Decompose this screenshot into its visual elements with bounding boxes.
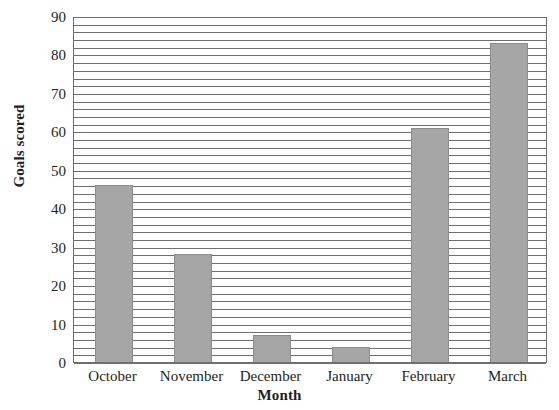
gridline <box>74 102 546 103</box>
gridline <box>74 194 546 195</box>
y-axis-tick-label: 30 <box>26 241 66 256</box>
gridline <box>74 317 546 318</box>
gridline <box>74 32 546 33</box>
y-axis-tick-label: 20 <box>26 279 66 294</box>
gridline <box>74 86 546 87</box>
gridline <box>74 271 546 272</box>
x-axis-tick-label: December <box>231 367 310 385</box>
gridline <box>74 40 546 41</box>
bar <box>174 254 212 362</box>
y-axis-tick-label: 0 <box>26 356 66 371</box>
gridline <box>74 232 546 233</box>
gridline <box>74 48 546 49</box>
gridline <box>74 109 546 110</box>
y-axis-tick-label: 60 <box>26 125 66 140</box>
gridline <box>74 325 546 326</box>
x-axis-tick-label: October <box>73 367 152 385</box>
gridline <box>74 340 546 341</box>
gridline <box>74 94 546 95</box>
x-axis-title: Month <box>0 387 559 404</box>
gridline <box>74 178 546 179</box>
gridline <box>74 263 546 264</box>
gridline <box>74 155 546 156</box>
gridline <box>74 117 546 118</box>
gridline <box>74 25 546 26</box>
y-axis-tick-label: 50 <box>26 164 66 179</box>
bar <box>95 185 133 362</box>
y-axis-tick-labels: 0102030405060708090 <box>22 17 66 363</box>
gridline <box>74 217 546 218</box>
gridline <box>74 240 546 241</box>
bar <box>411 128 449 363</box>
gridline <box>74 17 546 18</box>
y-axis-tick-label: 90 <box>26 10 66 25</box>
plot-area <box>73 17 547 363</box>
gridline <box>74 301 546 302</box>
gridline <box>74 186 546 187</box>
gridline <box>74 355 546 356</box>
bar-chart: Goals scored 0102030405060708090 October… <box>0 0 559 410</box>
gridline <box>74 125 546 126</box>
gridline <box>74 363 546 364</box>
gridline <box>74 348 546 349</box>
gridline <box>74 278 546 279</box>
x-axis-tick-label: November <box>152 367 231 385</box>
x-axis-tick-label: February <box>389 367 468 385</box>
gridline <box>74 55 546 56</box>
bar <box>490 43 528 362</box>
gridline <box>74 255 546 256</box>
gridline <box>74 309 546 310</box>
gridline <box>74 286 546 287</box>
gridline <box>74 294 546 295</box>
bar <box>332 347 370 362</box>
gridline <box>74 171 546 172</box>
x-axis-tick-label: March <box>468 367 547 385</box>
gridline <box>74 202 546 203</box>
gridline <box>74 332 546 333</box>
x-axis-tick-label: January <box>310 367 389 385</box>
gridline <box>74 225 546 226</box>
gridline <box>74 248 546 249</box>
y-axis-tick-label: 40 <box>26 202 66 217</box>
gridline <box>74 132 546 133</box>
gridline <box>74 209 546 210</box>
gridline <box>74 163 546 164</box>
y-axis-tick-label: 70 <box>26 87 66 102</box>
y-axis-tick-label: 80 <box>26 48 66 63</box>
gridline <box>74 79 546 80</box>
y-axis-tick-label: 10 <box>26 318 66 333</box>
gridline <box>74 71 546 72</box>
gridline <box>74 140 546 141</box>
bar <box>253 335 291 362</box>
gridline <box>74 63 546 64</box>
gridline <box>74 148 546 149</box>
